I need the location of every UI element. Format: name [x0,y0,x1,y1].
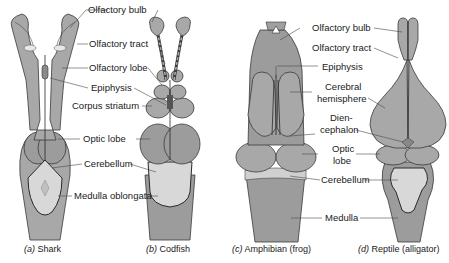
alligator-brain [370,18,446,242]
caption-letter-b: (b) [146,244,157,254]
brain-diagram: .t { fill: #a8a8a8; stroke: #3a3a3a; str… [0,0,449,263]
label-optic: Optic [332,144,354,154]
label-olfactory-tract-right: Olfactory tract [312,43,371,53]
label-cerebellum-right: Cerebellum [321,175,370,185]
label-optic-lobe-left: Optic lobe [83,134,126,144]
label-corpus-striatum: Corpus striatum [72,101,139,111]
caption-shark: (a) Shark [24,244,61,254]
caption-letter-a: (a) [24,244,35,254]
caption-codfish: (b) Codfish [146,244,190,254]
caption-letter-c: (c) [232,244,243,254]
label-epiphysis-left: Epiphysis [91,83,132,93]
label-olfactory-lobe-left: Olfactory lobe [89,63,148,73]
label-cerebellum-left: Cerebellum [84,159,133,169]
caption-alligator: (d) Reptile (alligator) [358,244,440,254]
label-olfactory-tract-left: Olfactory tract [89,39,148,49]
caption-name-b: Codfish [157,244,190,254]
label-epiphysis-right: Epiphysis [322,62,363,72]
label-olfactory-bulb-right: Olfactory bulb [312,23,371,33]
label-hemisphere: hemisphere [317,94,367,104]
label-olfactory-bulb-left: Olfactory bulb [88,5,147,15]
caption-frog: (c) Amphibian (frog) [232,244,311,254]
label-medulla-oblongata: Medulla oblongata [74,191,152,201]
caption-name-d: Reptile (alligator) [369,244,440,254]
frog-brain [236,22,316,242]
caption-name-a: Shark [35,244,61,254]
caption-letter-d: (d) [358,244,369,254]
label-medulla: Medulla [325,213,358,223]
codfish-brain [140,17,200,240]
label-cephalon: cephalon [320,125,359,135]
label-cerebral: Cerebral [325,82,361,92]
caption-name-c: Amphibian (frog) [243,244,312,254]
label-lobe: lobe [333,156,351,166]
label-dien: Dien- [330,113,353,123]
shark-brain [11,14,79,240]
